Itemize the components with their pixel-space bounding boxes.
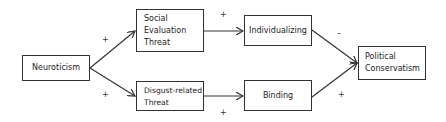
sign-individualizing-conservatism: – — [337, 30, 341, 38]
node-conservatism-line-1: Political — [365, 51, 425, 63]
node-disgust-line-1: Disgust-related — [144, 85, 203, 97]
node-individualizing-label: Individualizing — [249, 25, 307, 37]
node-political-conservatism: Political Conservatism — [358, 46, 426, 80]
edge-neuroticism-social-eval — [90, 31, 135, 68]
node-social-eval-line-3: Threat — [144, 37, 203, 49]
edge-individualizing-conservatism — [312, 30, 357, 63]
node-social-evaluation-threat: Social Evaluation Threat — [136, 9, 204, 52]
node-binding: Binding — [244, 80, 312, 111]
sign-neuroticism-social-eval: + — [102, 36, 109, 44]
node-individualizing: Individualizing — [244, 15, 312, 46]
node-conservatism-line-2: Conservatism — [365, 63, 425, 75]
node-disgust-line-2: Threat — [144, 97, 203, 109]
node-social-eval-line-2: Evaluation — [144, 25, 203, 37]
sign-binding-conservatism: + — [338, 91, 345, 99]
node-neuroticism-label: Neuroticism — [32, 62, 80, 74]
edge-binding-conservatism — [312, 63, 357, 97]
node-social-eval-line-1: Social — [144, 13, 203, 25]
sign-social-eval-individualizing: + — [220, 11, 227, 19]
node-disgust-related-threat: Disgust-related Threat — [136, 81, 204, 111]
node-binding-label: Binding — [263, 90, 293, 102]
sign-neuroticism-disgust: + — [102, 91, 109, 99]
node-neuroticism: Neuroticism — [22, 55, 90, 81]
sign-disgust-binding: + — [220, 109, 227, 117]
edge-neuroticism-disgust — [90, 68, 135, 96]
